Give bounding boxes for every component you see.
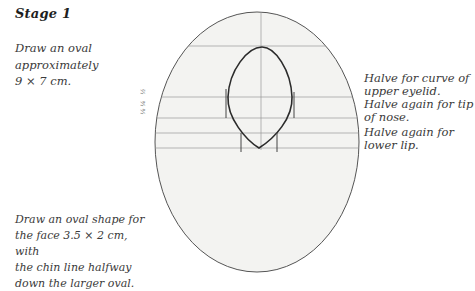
fraction-mark-quarter: ¼ [139,101,146,107]
face-construction-drawing [0,0,475,291]
fraction-mark-eighth: ⅛ [139,109,146,115]
fraction-mark-half: ½ [139,89,146,95]
large-oval [155,12,359,272]
